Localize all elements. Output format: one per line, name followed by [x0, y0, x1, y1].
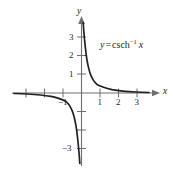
equation-exponent: −1: [130, 38, 137, 45]
x-axis-label: x: [163, 87, 167, 97]
plot-canvas: [0, 0, 173, 172]
y-tick-label-2: 2: [69, 51, 74, 60]
equation-function: csch: [112, 39, 130, 50]
x-tick-label-neg1: −1: [58, 98, 68, 107]
x-tick-label-2: 2: [116, 98, 121, 107]
y-tick-label-neg3: −3: [62, 144, 72, 153]
figure-csch-inverse-plot: y x −1 1 2 3 3 2 1 −3 y=csch−1 x: [0, 0, 173, 172]
curve-asymptote-positive: [83, 23, 86, 56]
equation-argument: x: [139, 39, 143, 50]
curve-branch-positive: [86, 56, 149, 93]
equation-equals: =: [104, 39, 112, 50]
curve-asymptote-negative: [77, 131, 80, 164]
x-tick-label-1: 1: [98, 98, 103, 107]
y-axis-label: y: [77, 7, 81, 17]
y-tick-label-1: 1: [69, 70, 74, 79]
curve-equation-label: y=csch−1 x: [100, 40, 143, 50]
y-tick-label-3: 3: [69, 33, 74, 42]
x-tick-label-3: 3: [135, 98, 140, 107]
